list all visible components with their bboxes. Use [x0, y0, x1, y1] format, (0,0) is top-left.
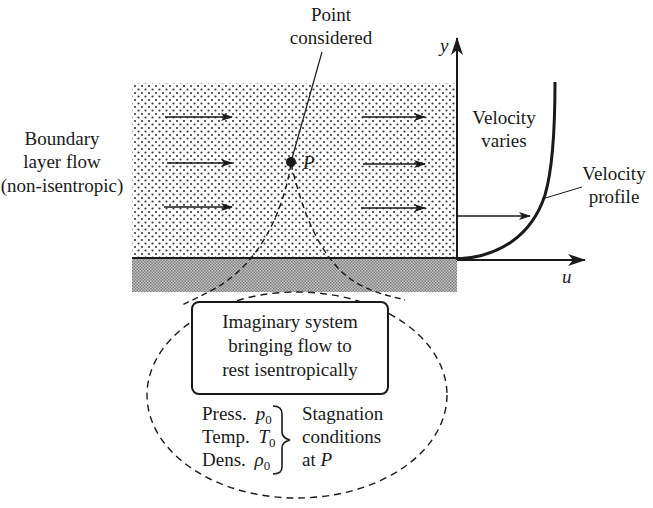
point-considered-label: Point considered: [290, 4, 373, 48]
velocity-varies-line-1: Velocity: [472, 107, 536, 128]
velocity-varies-line-2: varies: [481, 130, 526, 151]
stagnation-line-1: Stagnation: [302, 403, 384, 424]
wall-surface: [132, 258, 457, 292]
property-symbol: ρ: [254, 449, 264, 470]
point-considered-line-2: considered: [290, 27, 373, 48]
property-name: Press.: [202, 403, 247, 424]
stagnation-properties: Press. p0 Temp. T0 Dens. ρ0: [202, 403, 276, 473]
system-line-1: Imaginary system: [222, 311, 358, 332]
boundary-layer-region: [132, 83, 457, 258]
stagnation-point-symbol: P: [319, 449, 332, 470]
stagnation-line-2: conditions: [302, 426, 381, 447]
stagnation-result-label: Stagnation conditions at P: [302, 403, 384, 470]
property-temperature: Temp. T0: [202, 426, 276, 450]
system-line-3: rest isentropically: [222, 359, 358, 380]
property-density: Dens. ρ0: [202, 449, 270, 473]
boundary-layer-label: Boundary layer flow (non-isentropic): [1, 128, 123, 197]
system-line-2: bringing flow to: [228, 335, 352, 356]
property-name: Temp.: [202, 426, 250, 447]
property-symbol: p: [254, 403, 266, 424]
point-p-label: P: [302, 152, 315, 173]
property-name: Dens.: [202, 449, 246, 470]
boundary-layer-line-1: Boundary: [25, 128, 100, 149]
velocity-varies-label: Velocity varies: [472, 107, 536, 151]
y-axis-label: y: [438, 35, 449, 56]
velocity-profile-label: Velocity profile: [582, 163, 646, 207]
boundary-layer-line-2: layer flow: [23, 151, 101, 172]
property-subscript: 0: [264, 458, 271, 473]
point-p-marker: [286, 157, 296, 167]
stagnation-line-3: at P: [302, 449, 332, 470]
property-pressure: Press. p0: [202, 403, 272, 427]
point-considered-line-1: Point: [311, 4, 352, 25]
velocity-profile-line-2: profile: [589, 186, 640, 207]
velocity-profile-line-1: Velocity: [582, 163, 646, 184]
boundary-layer-line-3: (non-isentropic): [1, 175, 123, 197]
property-subscript: 0: [269, 435, 276, 450]
boundary-layer-diagram: Point considered Boundary layer flow (no…: [0, 0, 653, 508]
property-subscript: 0: [265, 412, 272, 427]
u-axis-label: u: [562, 266, 572, 287]
imaginary-system-text: Imaginary system bringing flow to rest i…: [222, 311, 358, 380]
